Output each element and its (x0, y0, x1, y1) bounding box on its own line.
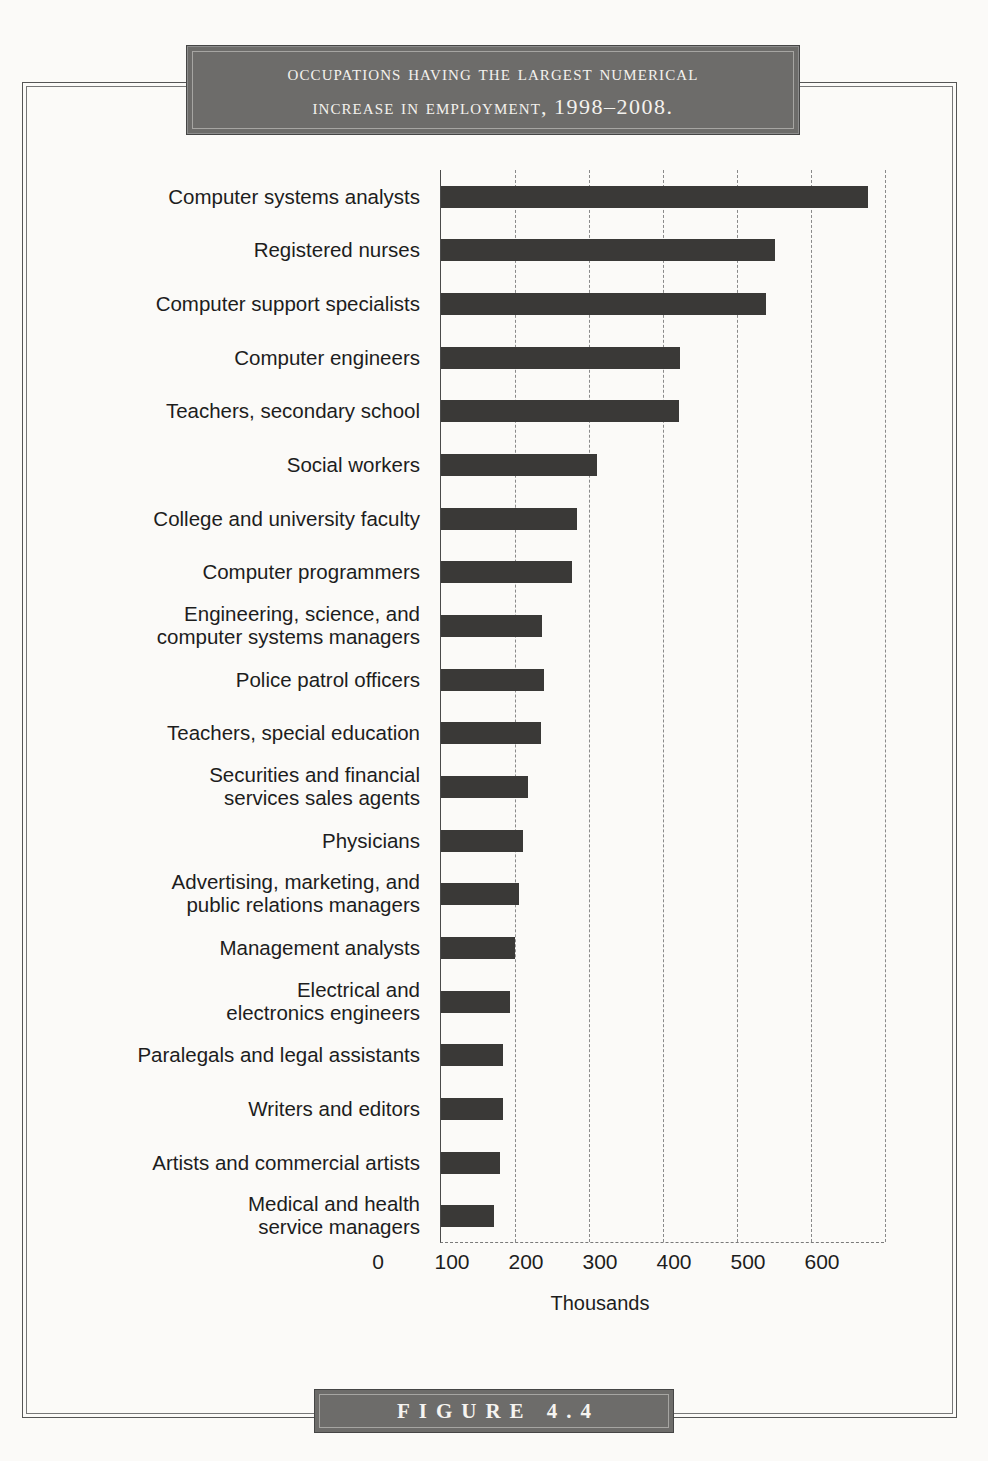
chart-title-line-2-prefix: increase in employment, (312, 94, 554, 119)
category-label: Computer programmers (60, 561, 420, 584)
bar (441, 937, 515, 959)
plot-area (440, 170, 884, 1243)
category-label-line: Medical and health (60, 1193, 420, 1216)
bar (441, 830, 523, 852)
category-label: Advertising, marketing, andpublic relati… (60, 871, 420, 917)
x-axis-tick-label: 500 (730, 1250, 765, 1274)
category-label-line: Securities and financial (60, 764, 420, 787)
category-label: Medical and healthservice managers (60, 1193, 420, 1239)
gridline (737, 170, 738, 1242)
bar (441, 722, 541, 744)
plot-wrapper: Computer systems analystsRegistered nurs… (62, 160, 892, 1250)
category-label-line: Advertising, marketing, and (60, 871, 420, 894)
category-label-line: Physicians (60, 829, 420, 852)
chart-title-line-2: increase in employment, 1998–2008. (287, 90, 698, 124)
category-label: Computer support specialists (60, 293, 420, 316)
bar (441, 508, 577, 530)
category-label: Police patrol officers (60, 668, 420, 691)
category-label: Management analysts (60, 936, 420, 959)
category-label-line: Registered nurses (60, 239, 420, 262)
category-label: Teachers, secondary school (60, 400, 420, 423)
x-axis-ticks: 0100200300400500600 (378, 1250, 822, 1280)
gridline (589, 170, 590, 1242)
bar (441, 186, 868, 208)
category-label: College and university faculty (60, 507, 420, 530)
category-label: Electrical andelectronics engineers (60, 979, 420, 1025)
bar-chart: Computer systems analystsRegistered nurs… (0, 160, 988, 1340)
category-label: Engineering, science, andcomputer system… (60, 603, 420, 649)
gridline (885, 170, 886, 1242)
category-label-line: Teachers, secondary school (60, 400, 420, 423)
category-label-line: Computer programmers (60, 561, 420, 584)
category-label-line: Computer engineers (60, 346, 420, 369)
chart-title-line-1: Occupations having the largest numerical (287, 56, 698, 90)
bar (441, 776, 528, 798)
category-label: Computer engineers (60, 346, 420, 369)
figure-page: Occupations having the largest numerical… (0, 0, 988, 1461)
category-label-line: Artists and commercial artists (60, 1151, 420, 1174)
bar (441, 239, 775, 261)
bar (441, 347, 680, 369)
category-label-line: Engineering, science, and (60, 603, 420, 626)
category-label-line: computer systems managers (60, 626, 420, 649)
title-banner: Occupations having the largest numerical… (186, 45, 800, 135)
category-label-line: Computer systems analysts (60, 185, 420, 208)
category-label-line: public relations managers (60, 894, 420, 917)
gridline (663, 170, 664, 1242)
category-label: Computer systems analysts (60, 185, 420, 208)
category-label-line: service managers (60, 1216, 420, 1239)
x-axis-tick-label: 0 (372, 1250, 384, 1274)
category-label: Social workers (60, 454, 420, 477)
category-label: Teachers, special education (60, 722, 420, 745)
category-label-line: College and university faculty (60, 507, 420, 530)
category-label: Registered nurses (60, 239, 420, 262)
x-axis-tick-label: 600 (804, 1250, 839, 1274)
bar (441, 669, 544, 691)
category-label-line: Writers and editors (60, 1097, 420, 1120)
category-label-line: Management analysts (60, 936, 420, 959)
bar (441, 1205, 494, 1227)
category-label: Physicians (60, 829, 420, 852)
category-label-line: Electrical and (60, 979, 420, 1002)
bar (441, 883, 519, 905)
category-label-line: electronics engineers (60, 1002, 420, 1025)
category-label-line: Police patrol officers (60, 668, 420, 691)
x-axis-tick-label: 300 (582, 1250, 617, 1274)
bar (441, 1098, 503, 1120)
category-label: Paralegals and legal assistants (60, 1044, 420, 1067)
bar (441, 293, 766, 315)
figure-caption-banner: FIGURE 4.4 (314, 1389, 674, 1433)
bar (441, 615, 542, 637)
figure-caption: FIGURE 4.4 (388, 1399, 600, 1424)
bar (441, 454, 597, 476)
chart-title: Occupations having the largest numerical… (269, 56, 716, 124)
category-label-line: Computer support specialists (60, 293, 420, 316)
bar (441, 991, 510, 1013)
category-label-line: Teachers, special education (60, 722, 420, 745)
category-label: Securities and financialservices sales a… (60, 764, 420, 810)
bar (441, 1044, 503, 1066)
category-label-line: services sales agents (60, 787, 420, 810)
gridline (811, 170, 812, 1242)
x-axis-label: Thousands (378, 1292, 822, 1315)
bar (441, 1152, 500, 1174)
gridline (515, 170, 516, 1242)
bar (441, 400, 679, 422)
chart-title-years: 1998–2008. (554, 94, 674, 119)
category-axis-labels: Computer systems analystsRegistered nurs… (62, 160, 430, 1243)
bar (441, 561, 572, 583)
x-axis-tick-label: 200 (508, 1250, 543, 1274)
x-axis-tick-label: 100 (434, 1250, 469, 1274)
category-label-line: Social workers (60, 454, 420, 477)
category-label: Artists and commercial artists (60, 1151, 420, 1174)
x-axis-tick-label: 400 (656, 1250, 691, 1274)
category-label: Writers and editors (60, 1097, 420, 1120)
category-label-line: Paralegals and legal assistants (60, 1044, 420, 1067)
